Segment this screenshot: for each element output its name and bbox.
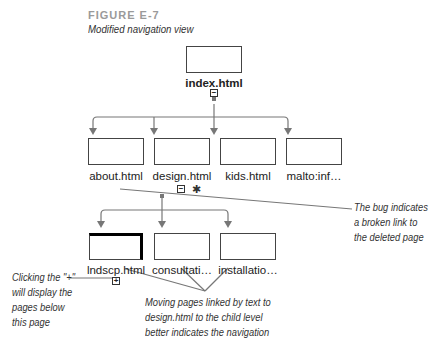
expand-toggle-lndscp[interactable]: + (112, 277, 120, 285)
callout-bug: The bug indicates a broken link to the d… (354, 200, 428, 245)
bug-icon[interactable]: ✱ (192, 184, 201, 195)
page-node-index[interactable] (186, 46, 242, 73)
page-node-lndscp-label: lndscp.html (80, 264, 152, 276)
page-node-consultation[interactable] (154, 233, 210, 260)
page-node-about-label: about.html (80, 170, 152, 182)
page-node-design[interactable] (154, 138, 210, 165)
page-node-design-label: design.html (146, 170, 218, 182)
collapse-toggle-index[interactable]: − (210, 89, 218, 97)
callout-moving: Moving pages linked by text to design.ht… (145, 295, 271, 340)
page-node-kids[interactable] (220, 138, 276, 165)
page-node-mailto-label: malto:inf… (278, 170, 350, 182)
page-node-mailto[interactable] (286, 138, 342, 165)
page-node-lndscp-selected[interactable] (89, 233, 143, 260)
page-node-installation-label: installatio… (212, 264, 284, 276)
page-node-kids-label: kids.html (212, 170, 284, 182)
page-node-installation[interactable] (220, 233, 276, 260)
page-node-about[interactable] (88, 138, 144, 165)
collapse-toggle-design[interactable]: − (177, 185, 185, 193)
page-node-consultation-label: consultati… (146, 264, 218, 276)
callout-plus: Clicking the "+" will display the pages … (12, 270, 75, 330)
